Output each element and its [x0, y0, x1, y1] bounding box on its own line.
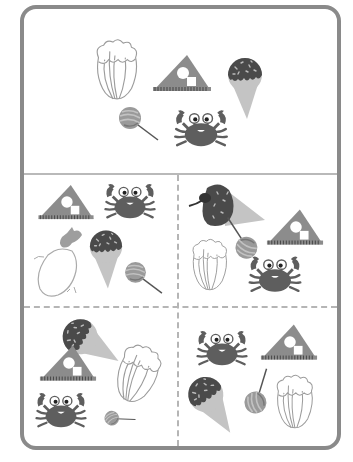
lollipop-icon [124, 261, 164, 295]
crab-icon [32, 390, 90, 430]
triangle-ruler-icon [151, 53, 213, 93]
lollipop-icon [118, 106, 160, 142]
crab-icon [170, 107, 232, 149]
reference-panel [24, 9, 337, 173]
triangle-ruler-icon [265, 207, 325, 247]
option-panel-bottom-left[interactable] [24, 308, 177, 442]
cabbage-icon [90, 39, 142, 103]
option-panel-bottom-right[interactable] [179, 308, 333, 442]
cabbage-icon [271, 372, 317, 434]
triangle-ruler-icon [38, 343, 98, 383]
option-panel-top-left[interactable] [24, 175, 177, 306]
cabbage-icon [187, 235, 231, 297]
crab-icon [245, 253, 305, 295]
crab-icon [193, 328, 251, 368]
ice-cream-icon [87, 227, 125, 293]
eggplant-icon [34, 227, 84, 299]
triangle-ruler-icon [259, 322, 319, 362]
crab-icon [100, 181, 160, 221]
triangle-ruler-icon [36, 183, 96, 221]
option-panel-top-right[interactable] [179, 175, 333, 306]
